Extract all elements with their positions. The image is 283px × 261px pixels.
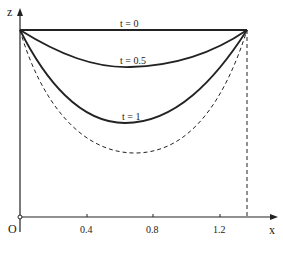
curve-t1	[20, 30, 247, 123]
origin-label: O	[8, 222, 17, 236]
curve-label-t0.5: t = 0.5	[120, 55, 146, 66]
x-tick-label-1.2: 1.2	[213, 224, 226, 235]
x-axis-arrow-icon	[270, 214, 278, 220]
curve-label-t0: t = 0	[120, 18, 138, 29]
curve-label-t1: t = 1	[122, 111, 140, 122]
x-tick-label-0.4: 0.4	[80, 224, 93, 235]
x-axis-label: x	[269, 223, 275, 237]
z-axis-label: z	[7, 5, 12, 19]
z-axis-arrow-icon	[17, 8, 23, 16]
x-tick-label-0.8: 0.8	[146, 224, 159, 235]
diagram-canvas: z x O 0.4 0.8 1.2 t = 0 t = 0.5 t = 1	[0, 0, 283, 261]
origin-marker	[18, 215, 22, 219]
